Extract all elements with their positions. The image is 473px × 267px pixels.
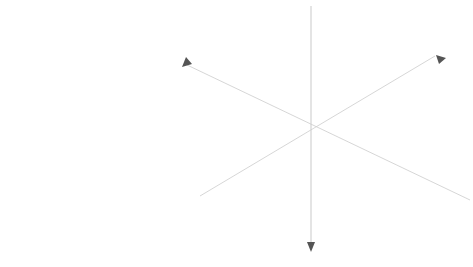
x-arrow-icon [436, 55, 446, 64]
x-axis-line [200, 56, 435, 196]
y-arrow-icon [307, 242, 315, 252]
z-arrow-icon [182, 57, 192, 67]
coordinate-axes [185, 6, 470, 246]
hex-diagram [0, 0, 473, 267]
axis-markers [182, 55, 446, 252]
